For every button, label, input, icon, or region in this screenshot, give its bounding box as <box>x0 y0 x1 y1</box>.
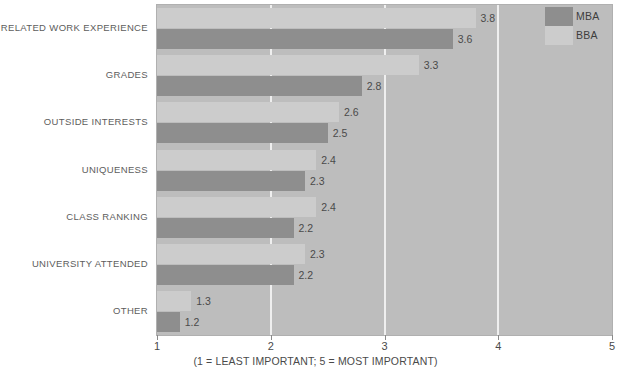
category-label-2: GRADES <box>0 69 148 80</box>
legend-item-bba[interactable]: BBA <box>545 26 607 45</box>
plot-area: 3.83.63.32.82.62.52.42.32.42.22.32.21.31… <box>157 5 612 335</box>
bar-mba-5 <box>157 218 294 238</box>
bar-mba-6 <box>157 265 294 285</box>
bar-bba-1 <box>157 8 476 28</box>
category-label-7: OTHER <box>0 305 148 316</box>
bar-bba-4 <box>157 150 316 170</box>
legend-label-mba: MBA <box>576 10 599 22</box>
bar-mba-3 <box>157 123 328 143</box>
tick-label-4: 4 <box>495 340 501 352</box>
bar-bba-7 <box>157 291 191 311</box>
bar-value-mba-6: 2.2 <box>299 265 314 285</box>
category-label-3: OUTSIDE INTERESTS <box>0 116 148 127</box>
legend-swatch-bba <box>545 26 573 45</box>
gridline-4 <box>497 5 499 335</box>
bar-value-mba-4: 2.3 <box>310 171 325 191</box>
category-label-5: CLASS RANKING <box>0 211 148 222</box>
bar-mba-1 <box>157 29 453 49</box>
x-axis: 12345 <box>157 335 612 353</box>
category-label-1: RELATED WORK EXPERIENCE <box>0 22 148 33</box>
bar-bba-3 <box>157 102 339 122</box>
bar-value-bba-3: 2.6 <box>344 102 359 122</box>
bar-value-bba-1: 3.8 <box>481 8 496 28</box>
tick-label-5: 5 <box>609 340 615 352</box>
category-label-6: UNIVERSITY ATTENDED <box>0 258 148 269</box>
chart-legend: MBABBA <box>545 7 607 49</box>
legend-item-mba[interactable]: MBA <box>545 7 607 26</box>
bar-value-mba-2: 2.8 <box>367 76 382 96</box>
bar-value-bba-6: 2.3 <box>310 244 325 264</box>
bar-value-mba-3: 2.5 <box>333 123 348 143</box>
bar-value-bba-2: 3.3 <box>424 55 439 75</box>
tick-label-2: 2 <box>268 340 274 352</box>
bar-bba-2 <box>157 55 419 75</box>
legend-label-bba: BBA <box>576 29 598 41</box>
bar-bba-5 <box>157 197 316 217</box>
category-label-4: UNIQUENESS <box>0 164 148 175</box>
bar-mba-2 <box>157 76 362 96</box>
legend-swatch-mba <box>545 7 573 26</box>
bar-value-mba-7: 1.2 <box>185 312 200 332</box>
bar-value-mba-1: 3.6 <box>458 29 473 49</box>
tick-label-1: 1 <box>154 340 160 352</box>
x-axis-caption: (1 = LEAST IMPORTANT; 5 = MOST IMPORTANT… <box>0 355 631 367</box>
chart-screenshot: RELATED WORK EXPERIENCEGRADESOUTSIDE INT… <box>0 0 631 372</box>
bar-value-bba-4: 2.4 <box>321 150 336 170</box>
bar-bba-6 <box>157 244 305 264</box>
bar-value-mba-5: 2.2 <box>299 218 314 238</box>
bar-value-bba-7: 1.3 <box>196 291 211 311</box>
category-axis-labels: RELATED WORK EXPERIENCEGRADESOUTSIDE INT… <box>0 5 152 335</box>
bar-mba-7 <box>157 312 180 332</box>
bar-value-bba-5: 2.4 <box>321 197 336 217</box>
bar-mba-4 <box>157 171 305 191</box>
tick-label-3: 3 <box>381 340 387 352</box>
